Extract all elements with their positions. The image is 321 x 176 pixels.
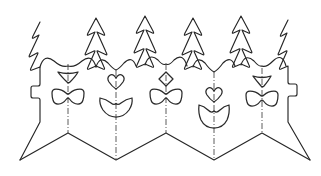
canvas-background <box>0 0 321 176</box>
tree-border-illustration <box>0 0 321 176</box>
artboard <box>0 0 321 176</box>
